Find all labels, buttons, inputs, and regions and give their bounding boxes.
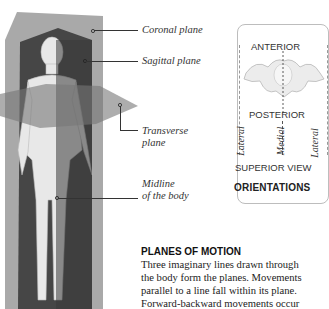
transverse-leader-line-h <box>120 130 138 131</box>
coronal-plane-label: Coronal plane <box>142 24 203 36</box>
anatomy-figure <box>0 0 140 309</box>
sagittal-leader-line <box>86 61 138 62</box>
transverse-plane-label-2: plane <box>142 137 165 149</box>
transverse-leader-line-v <box>120 106 121 130</box>
planes-of-motion-heading: PLANES OF MOTION <box>141 246 241 257</box>
body-line: parallel to a line fall within its plane… <box>141 284 311 297</box>
sagittal-shade <box>56 40 92 309</box>
orientations-title: ORIENTATIONS <box>234 182 310 193</box>
transverse-plane-shape <box>0 84 138 128</box>
lateral-right-label: Lateral <box>309 128 321 157</box>
midline-label-1: Midline <box>142 178 175 190</box>
superior-view-label: SUPERIOR VIEW <box>235 162 312 173</box>
orientations-panel: ANTERIOR POSTERIOR Lateral Medial Latera… <box>237 24 329 204</box>
sagittal-plane-label: Sagittal plane <box>142 55 201 67</box>
planes-illustration <box>0 0 140 309</box>
body-line: the body form the planes. Movements <box>141 271 311 284</box>
lateral-right-guide <box>327 45 328 155</box>
midline-label-2: of the body <box>142 190 189 202</box>
vertebra-icon <box>238 51 328 113</box>
planes-of-motion-body: Three imaginary lines drawn through the … <box>141 258 311 309</box>
body-line: Three imaginary lines drawn through <box>141 258 311 271</box>
body-line: Forward-backward movements occur <box>141 297 311 309</box>
midline-leader-line <box>58 198 138 199</box>
posterior-label: POSTERIOR <box>249 109 305 120</box>
medial-label: Medial <box>275 127 287 155</box>
lateral-left-label: Lateral <box>235 126 247 155</box>
transverse-plane-label-1: Transverse <box>142 125 188 137</box>
coronal-leader-line <box>94 30 138 31</box>
